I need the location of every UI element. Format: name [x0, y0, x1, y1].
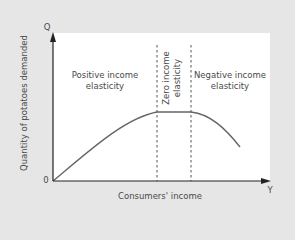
region-positive-label: Positive income elasticity — [60, 70, 150, 92]
region-positive-line2: elasticity — [60, 81, 150, 92]
demand-curve — [53, 112, 240, 181]
region-negative-label: Negative income elasticity — [190, 70, 270, 92]
y-axis-arrow-icon — [50, 32, 56, 42]
origin-label: 0 — [40, 175, 52, 186]
region-zero-line2: elasticity — [172, 48, 183, 108]
x-axis-arrow-icon — [261, 178, 271, 184]
region-zero-label: Zero income elasticity — [161, 48, 183, 108]
region-zero-line1: Zero income — [161, 48, 172, 108]
region-negative-line2: elasticity — [190, 81, 270, 92]
x-axis-symbol: Y — [264, 185, 276, 196]
x-axis-label: Consumers' income — [100, 191, 220, 202]
y-axis-symbol: Q — [41, 22, 53, 33]
y-axis-label: Quantity of potatoes demanded — [19, 23, 29, 183]
region-positive-line1: Positive income — [60, 70, 150, 81]
region-negative-line1: Negative income — [190, 70, 270, 81]
